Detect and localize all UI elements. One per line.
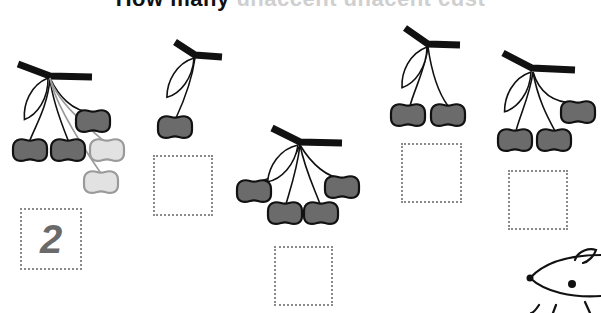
cherry-icon [304,202,338,224]
mouse-nose-icon [527,275,534,282]
cherry-icon [561,101,595,123]
cherry-bunch-5 [498,53,595,151]
cherry-bunch-1 [13,64,124,193]
answer-value: 2 [40,217,62,262]
branch-icon [175,42,222,57]
faded-cherry-icon [90,139,124,161]
branch-icon [405,28,460,45]
cherry-icon [13,139,47,161]
cherry-bunch-4 [391,28,465,126]
cherry-icon [158,116,192,138]
leaf-icon [23,75,49,123]
cherry-icon [498,129,532,151]
leaf-icon [503,68,532,116]
cherry-bunch-3 [237,128,359,224]
cherry-icon [325,176,359,198]
answer-box-3[interactable] [274,246,333,306]
cherry-icon [51,139,85,161]
answer-box-1[interactable]: 2 [20,208,82,270]
branch-icon [18,64,92,77]
faded-cherry-icon [84,171,118,193]
cherry-icon [268,202,302,224]
branch-icon [503,53,575,70]
answer-box-5[interactable] [508,170,568,230]
answer-box-4[interactable] [401,143,462,203]
cherry-icon [537,129,571,151]
answer-box-2[interactable] [153,155,213,216]
cherry-icon [76,110,110,132]
cherry-icon [391,104,425,126]
cherry-bunch-2 [158,42,222,138]
mouse-eye-icon [568,280,576,288]
branch-icon [272,128,342,143]
cherry-icon [237,180,271,202]
mouse-icon [530,249,601,313]
leaf-icon [266,139,299,188]
cherry-icon [431,104,465,126]
